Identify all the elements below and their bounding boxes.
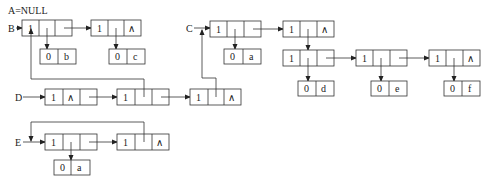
atom-value: d [321, 83, 326, 94]
node-tag: 1 [51, 137, 56, 148]
atom-value: a [249, 51, 254, 62]
null-pointer-symbol: ∧ [156, 137, 163, 148]
null-pointer-symbol: ∧ [467, 53, 474, 64]
atom-value: a [77, 162, 82, 173]
atom-node-a-e: 0 a [54, 160, 90, 175]
node-s3: 1 ∧ [429, 50, 480, 66]
node-tag: 1 [51, 92, 56, 103]
null-pointer-symbol: ∧ [128, 23, 135, 34]
list-d-label: D [15, 92, 22, 103]
atom-tag: 0 [450, 83, 455, 94]
node-tag: 1 [216, 24, 221, 35]
node-tag: 1 [28, 23, 33, 34]
atom-tag: 0 [230, 51, 235, 62]
atom-node-f: 0 f [444, 81, 480, 96]
list-c-label: C [186, 23, 193, 34]
node-tag: 1 [123, 92, 128, 103]
atom-tag: 0 [304, 83, 309, 94]
list-b-label: B [8, 23, 15, 34]
node-tag: 1 [435, 53, 440, 64]
node-tag: 1 [123, 137, 128, 148]
atom-value: c [133, 51, 138, 62]
atom-node-e: 0 e [371, 81, 407, 96]
node-tag: 1 [362, 53, 367, 64]
node-tag: 1 [289, 24, 294, 35]
list-a-null-label: A=NULL [8, 5, 48, 16]
atom-node-a-c: 0 a [224, 49, 261, 64]
node-tag: 1 [97, 23, 102, 34]
atom-tag: 0 [60, 162, 65, 173]
node-e2: 1 ∧ [117, 134, 169, 150]
null-pointer-symbol: ∧ [67, 92, 74, 103]
atom-tag: 0 [115, 51, 120, 62]
d3-to-list-c-arrow [202, 30, 216, 97]
node-tag: 1 [196, 92, 201, 103]
null-pointer-symbol: ∧ [228, 92, 235, 103]
atom-node-b: 0 b [40, 49, 76, 64]
node-c2: 1 ∧ [283, 21, 334, 37]
atom-value: b [64, 51, 69, 62]
atom-value: e [395, 83, 400, 94]
list-e-label: E [15, 137, 21, 148]
generalized-list-diagram: A=NULL B 1 1 ∧ 0 b 0 c C 1 [0, 0, 500, 186]
node-tag: 1 [289, 53, 294, 64]
null-pointer-symbol: ∧ [321, 24, 328, 35]
atom-tag: 0 [377, 83, 382, 94]
atom-tag: 0 [46, 51, 51, 62]
node-d3: 1 ∧ [190, 89, 241, 105]
atom-node-d: 0 d [298, 81, 334, 96]
atom-node-c: 0 c [109, 49, 145, 64]
